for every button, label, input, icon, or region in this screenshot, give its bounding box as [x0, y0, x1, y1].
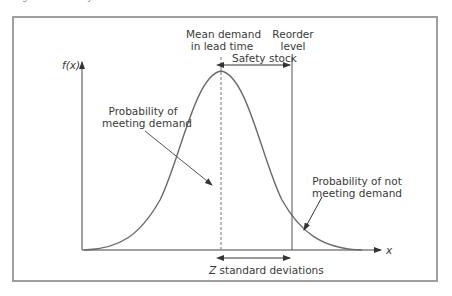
x-axis-label: x	[386, 244, 392, 256]
meeting-demand-pointer	[145, 131, 212, 185]
not-meeting-demand-line2: meeting demand	[304, 187, 410, 199]
reorder-level-line1: Reorder	[272, 28, 314, 40]
reorder-level-label: Reorder level	[272, 28, 314, 52]
not-meeting-demand-line1: Probability of not	[304, 175, 410, 187]
z-std-dev-text: standard deviations	[216, 264, 324, 276]
safety-stock-label: Safety stock	[232, 52, 297, 64]
y-axis-label: f(x)	[62, 59, 80, 71]
not-meeting-demand-pointer	[304, 197, 322, 230]
meeting-demand-line1: Probability of	[102, 105, 184, 117]
mean-demand-line1: Mean demand	[186, 28, 258, 40]
meeting-demand-label: Probability of meeting demand	[102, 105, 184, 129]
reorder-level-line2: level	[272, 40, 314, 52]
mean-demand-line2: in lead time	[186, 40, 258, 52]
mean-demand-label: Mean demand in lead time	[186, 28, 258, 52]
not-meeting-demand-label: Probability of not meeting demand	[304, 175, 410, 199]
normal-curve	[84, 71, 362, 250]
meeting-demand-line2: meeting demand	[102, 117, 184, 129]
z-std-dev-label: Z standard deviations	[209, 264, 324, 276]
